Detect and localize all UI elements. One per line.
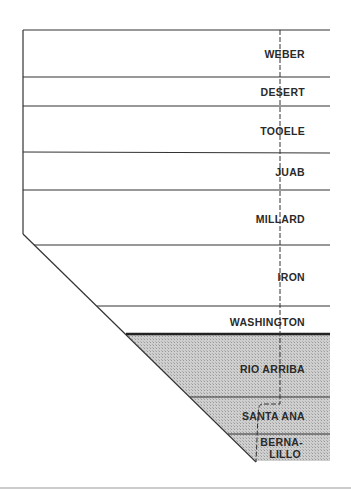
unit-label-juab: JUAB <box>275 166 305 178</box>
unit-label-washington: WASHINGTON <box>230 316 305 328</box>
stratigraphic-diagram: WEBER DESERT TOOELE JUAB MILLARD IRON WA… <box>0 0 351 491</box>
unit-label-bernalillo-line1: BERNA- <box>260 436 303 448</box>
boundary-tooele-juab <box>23 152 330 153</box>
unit-label-tooele: TOOELE <box>260 125 305 137</box>
unit-label-weber: WEBER <box>264 48 305 60</box>
unit-label-iron: IRON <box>278 271 305 283</box>
unit-label-rio-arriba: RIO ARRIBA <box>240 363 305 375</box>
unit-label-santa-ana: SANTA ANA <box>242 410 305 422</box>
unit-label-millard: MILLARD <box>256 213 305 225</box>
unit-label-desert: DESERT <box>261 86 306 98</box>
unit-label-bernalillo-line2: LILLO <box>269 448 301 460</box>
